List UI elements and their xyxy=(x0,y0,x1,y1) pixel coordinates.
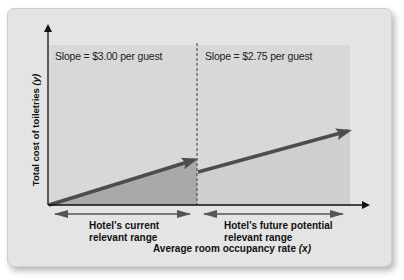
y-axis-label: Total cost of toiletries (y) xyxy=(30,74,41,186)
y-axis-variable: (y) xyxy=(30,74,41,86)
x-axis-label: Average room occupancy rate (x) xyxy=(0,243,404,254)
current-range-label-line1: Hotel’s current xyxy=(89,220,159,232)
cost-chart xyxy=(0,0,404,280)
x-axis-variable: (x) xyxy=(299,243,311,254)
y-axis-label-text: Total cost of toiletries xyxy=(30,85,41,186)
x-axis-label-text: Average room occupancy rate xyxy=(153,243,299,254)
slope-label-current: Slope = $3.00 per guest xyxy=(55,50,162,62)
future-range-label-line1: Hotel’s future potential xyxy=(224,220,333,232)
future-range-label: Hotel’s future potential relevant range xyxy=(224,220,333,244)
current-range-label: Hotel’s current relevant range xyxy=(89,220,159,244)
slope-label-future: Slope = $2.75 per guest xyxy=(205,50,312,62)
